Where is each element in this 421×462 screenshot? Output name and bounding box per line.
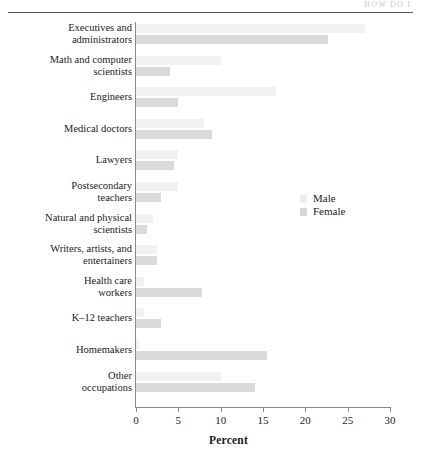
bar-male: [136, 308, 144, 317]
bar-group: [136, 214, 153, 234]
bar-male: [136, 182, 178, 191]
bar-female: [136, 288, 202, 297]
legend-swatch-female-icon: [300, 208, 307, 216]
bar-female: [136, 98, 178, 107]
running-head: HOW DO I: [364, 0, 411, 10]
x-tick: [221, 407, 222, 412]
category-label: Medical doctors: [7, 123, 132, 135]
bar-female: [136, 383, 255, 392]
bar-group: [136, 340, 267, 360]
bar-female: [136, 319, 161, 328]
bar-male: [136, 56, 221, 65]
category-label: K–12 teachers: [7, 312, 132, 324]
x-tick: [178, 407, 179, 412]
bar-female: [136, 67, 170, 76]
bar-male: [136, 119, 204, 128]
x-tick-label: 10: [215, 414, 226, 426]
x-tick: [390, 407, 391, 412]
category-label: Natural and physicalscientists: [7, 212, 132, 236]
legend-item-female: Female: [300, 205, 345, 218]
legend-swatch-male-icon: [300, 195, 307, 203]
category-label: Engineers: [7, 91, 132, 103]
bar-group: [136, 87, 276, 107]
x-tick-label: 25: [342, 414, 353, 426]
bar-female: [136, 193, 161, 202]
x-tick-label: 0: [133, 414, 139, 426]
header-rule: [8, 12, 413, 13]
bar-female: [136, 256, 157, 265]
x-tick-label: 20: [300, 414, 311, 426]
legend-item-male: Male: [300, 192, 345, 205]
category-label: Writers, artists, andentertainers: [7, 243, 132, 267]
x-axis-title: Percent: [0, 434, 421, 446]
bar-male: [136, 245, 157, 254]
bar-male: [136, 372, 221, 381]
x-tick-label: 30: [385, 414, 396, 426]
bar-group: [136, 56, 221, 76]
x-tick-label: 15: [258, 414, 269, 426]
category-label: Health careworkers: [7, 275, 132, 299]
category-label: Postsecondaryteachers: [7, 180, 132, 204]
bar-female: [136, 225, 147, 234]
bar-group: [136, 277, 202, 297]
x-tick: [305, 407, 306, 412]
category-label: Executives andadministrators: [7, 22, 132, 46]
x-tick: [136, 407, 137, 412]
bar-male: [136, 340, 139, 349]
bar-group: [136, 24, 365, 44]
bar-group: [136, 245, 157, 265]
x-tick: [263, 407, 264, 412]
x-axis-title-text: Percent: [209, 434, 248, 446]
bar-group: [136, 119, 212, 139]
category-label: Math and computerscientists: [7, 54, 132, 78]
x-tick: [348, 407, 349, 412]
bar-female: [136, 351, 267, 360]
legend-label-male: Male: [313, 192, 336, 205]
x-tick-label: 5: [176, 414, 182, 426]
bar-group: [136, 150, 178, 170]
bar-female: [136, 35, 328, 44]
bar-male: [136, 24, 365, 33]
bar-male: [136, 150, 178, 159]
bar-group: [136, 308, 161, 328]
bar-group: [136, 372, 255, 392]
chart-legend: Male Female: [300, 192, 345, 218]
category-label: Lawyers: [7, 154, 132, 166]
bar-female: [136, 130, 212, 139]
bar-group: [136, 182, 178, 202]
bar-male: [136, 214, 153, 223]
bar-female: [136, 161, 174, 170]
legend-label-female: Female: [313, 205, 345, 218]
occupation-gender-bar-chart: HOW DO I 051015202530 Executives andadmi…: [0, 0, 421, 462]
category-label: Otheroccupations: [7, 370, 132, 394]
bar-male: [136, 87, 276, 96]
bar-male: [136, 277, 144, 286]
category-label: Homemakers: [7, 344, 132, 356]
